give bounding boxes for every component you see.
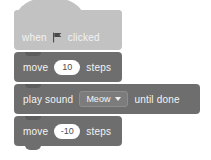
clicked-label: clicked bbox=[68, 32, 100, 43]
move-label: move bbox=[23, 126, 48, 137]
block-notch-bottom bbox=[25, 145, 41, 150]
steps-number-input[interactable]: 10 bbox=[54, 60, 80, 75]
chevron-down-icon bbox=[115, 97, 121, 101]
block-move-neg10-row: move -10 steps bbox=[14, 116, 120, 146]
sound-dropdown-value: Meow bbox=[86, 94, 110, 104]
sound-dropdown[interactable]: Meow bbox=[79, 91, 128, 107]
block-move-10-steps[interactable]: move 10 steps bbox=[14, 52, 122, 82]
steps-label: steps bbox=[86, 126, 111, 137]
steps-label: steps bbox=[86, 62, 111, 73]
move-label: move bbox=[23, 62, 48, 73]
block-play-sound-row: play sound Meow until done bbox=[14, 84, 189, 114]
block-when-flag-clicked[interactable]: when clicked bbox=[14, 10, 122, 50]
steps-number-input[interactable]: -10 bbox=[54, 124, 80, 139]
block-move-minus-10-steps[interactable]: move -10 steps bbox=[14, 116, 122, 146]
play-sound-label: play sound bbox=[23, 94, 73, 105]
hat-block-label-row: when clicked bbox=[14, 26, 122, 48]
until-done-label: until done bbox=[134, 94, 179, 105]
green-flag-icon bbox=[52, 32, 63, 43]
when-label: when bbox=[22, 32, 47, 43]
block-play-sound-until-done[interactable]: play sound Meow until done bbox=[14, 84, 200, 114]
block-move-10-row: move 10 steps bbox=[14, 52, 120, 82]
scratch-script-canvas: when clicked move 10 steps play sound Me… bbox=[0, 0, 211, 160]
